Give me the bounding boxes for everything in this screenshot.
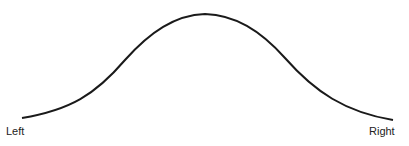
left-label: Left	[6, 125, 24, 137]
bell-curve-diagram	[0, 0, 409, 146]
bell-curve	[22, 14, 393, 120]
right-label: Right	[369, 125, 395, 137]
